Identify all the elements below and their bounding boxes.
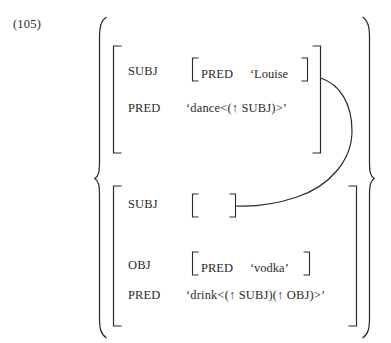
fstruct2-subj-attribute: SUBJ <box>128 197 186 212</box>
vodka-matrix-left-bracket <box>193 252 199 275</box>
louise-matrix-right-bracket <box>302 58 308 81</box>
louise-pred-value: ‘Louise <box>250 67 288 82</box>
vodka-pred-value: ‘vodka’ <box>250 261 289 276</box>
outer-right-brace <box>363 17 375 338</box>
louise-pred-attribute: PRED <box>201 67 233 82</box>
fstruct1-left-bracket <box>114 46 122 153</box>
fstruct2-obj-attribute: OBJ <box>128 258 186 273</box>
fstruct1-pred-value: ‘dance<(↑ SUBJ)>’ <box>186 101 287 116</box>
louise-matrix-left-bracket <box>193 58 199 81</box>
lfg-f-structure-figure: (105) SUBJ PRED ‘Louise PRED ‘ <box>0 0 391 343</box>
fstruct2-row-obj: OBJ <box>128 258 186 273</box>
fstruct2-right-bracket <box>349 186 357 326</box>
fstruct1-subj-value-matrix: PRED ‘Louise <box>201 64 288 82</box>
fstruct2-pred-value: ‘drink<(↑ SUBJ)(↑ OBJ)>’ <box>186 288 325 303</box>
fstruct2-obj-value-matrix: PRED ‘vodka’ <box>201 258 289 276</box>
empty-subj-matrix-right-bracket <box>230 194 236 217</box>
fstruct2-row-subj: SUBJ <box>128 197 186 212</box>
fstruct1-row-subj: SUBJ <box>128 64 186 79</box>
vodka-pred-attribute: PRED <box>201 261 233 276</box>
fstruct2-row-pred: PRED ‘drink<(↑ SUBJ)(↑ OBJ)>’ <box>128 288 325 303</box>
fstruct1-subj-attribute: SUBJ <box>128 64 186 79</box>
fstruct2-pred-attribute: PRED <box>128 288 186 303</box>
fstruct1-pred-attribute: PRED <box>128 101 186 116</box>
fstruct2-left-bracket <box>114 186 122 326</box>
fstruct1-row-pred: PRED ‘dance<(↑ SUBJ)>’ <box>128 101 287 116</box>
vodka-matrix-right-bracket <box>304 252 310 275</box>
structure-sharing-line <box>236 78 353 206</box>
fstruct1-right-bracket <box>313 46 321 153</box>
outer-left-brace <box>95 17 107 338</box>
example-number: (105) <box>13 17 41 32</box>
empty-subj-matrix-left-bracket <box>193 194 199 217</box>
